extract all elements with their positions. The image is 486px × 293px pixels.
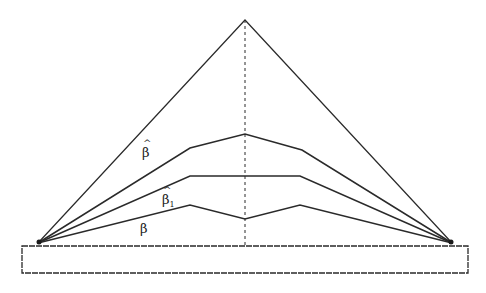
- label-beta-hat-1: β1: [162, 193, 175, 209]
- label-beta: β: [140, 222, 148, 235]
- right-anchor-point: [449, 240, 454, 245]
- label-beta-symbol: β: [140, 221, 148, 236]
- left-anchor-point: [37, 240, 42, 245]
- label-beta-hat-1-symbol: β: [162, 193, 170, 206]
- triangle-curves-diagram: [0, 0, 486, 293]
- triangle-envelope: [38, 20, 452, 243]
- label-beta-hat-symbol: β: [142, 146, 150, 159]
- label-beta-hat: β: [142, 146, 150, 159]
- base-rectangle: [22, 246, 468, 273]
- label-beta-hat-1-subscript: 1: [170, 200, 175, 209]
